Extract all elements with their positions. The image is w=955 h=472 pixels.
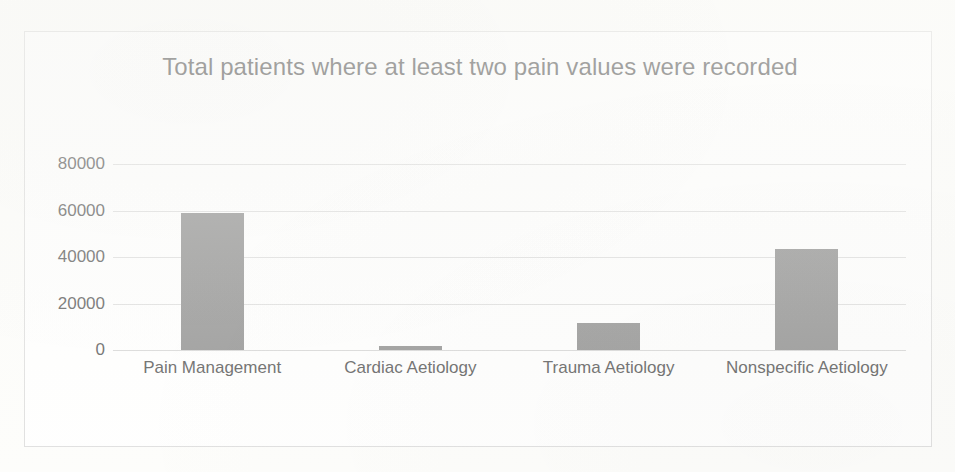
y-tick-label: 0 [96, 340, 105, 360]
x-tick-label: Pain Management [113, 356, 311, 436]
bar [379, 346, 442, 350]
y-tick-label: 40000 [58, 247, 105, 267]
chart-container: Total patients where at least two pain v… [24, 31, 932, 447]
x-tick-label: Trauma Aetiology [510, 356, 708, 436]
x-axis: Pain ManagementCardiac AetiologyTrauma A… [113, 356, 906, 436]
x-tick-label: Cardiac Aetiology [311, 356, 509, 436]
x-tick-label: Nonspecific Aetiology [708, 356, 906, 436]
bar [181, 213, 244, 350]
bar-series [113, 164, 906, 350]
y-axis: 020000400006000080000 [35, 164, 105, 350]
bar [577, 323, 640, 350]
chart-title: Total patients where at least two pain v… [85, 50, 875, 83]
bar [775, 249, 838, 350]
y-tick-label: 20000 [58, 294, 105, 314]
y-tick-label: 60000 [58, 201, 105, 221]
y-tick-label: 80000 [58, 154, 105, 174]
gridline [113, 350, 906, 351]
